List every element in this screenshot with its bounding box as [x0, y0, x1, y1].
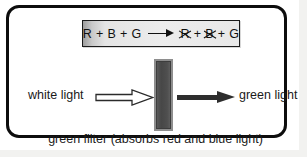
figure-caption: green filter (absorbs red and blue light…	[9, 132, 302, 146]
equation-right-arrow-icon	[148, 29, 174, 39]
equation-right-term-b-struck: B	[205, 27, 215, 41]
light-beam-row: white light green light	[9, 86, 302, 108]
equation-left-operator-1: +	[96, 27, 105, 41]
white-light-label: white light	[28, 88, 84, 102]
figure-border-frame: R + B + G R + B + G white light	[6, 5, 287, 138]
hollow-right-arrow-icon	[95, 89, 154, 106]
solid-arrow-head	[217, 91, 235, 103]
equation-right-operator-1: +	[193, 27, 202, 41]
figure-root: R + B + G R + B + G white light	[0, 0, 307, 157]
equation-left-operator-2: +	[120, 27, 129, 41]
equation-arrow-shaft	[148, 33, 167, 35]
equation-right-operator-2: +	[217, 27, 226, 41]
equation-left-term-r: R	[82, 27, 92, 41]
equation-right-term-g: G	[229, 27, 240, 41]
equation-right-term-r-struck: R	[180, 27, 190, 41]
equation-arrow-head	[166, 29, 174, 37]
equation-left-term-b: B	[107, 27, 117, 41]
equation-expression: R + B + G R + B + G	[82, 27, 239, 41]
equation-box: R + B + G R + B + G	[82, 20, 240, 47]
solid-right-arrow-icon	[177, 91, 235, 104]
equation-left-term-g: G	[131, 27, 142, 41]
green-light-label: green light	[239, 88, 297, 102]
solid-arrow-shaft	[177, 95, 217, 99]
